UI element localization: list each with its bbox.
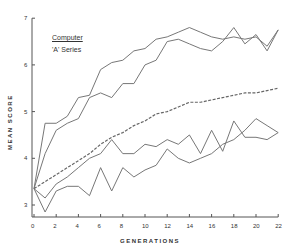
legend-computer: Computer	[52, 34, 83, 41]
x-tick-label: 22	[275, 223, 282, 229]
y-tick-label: 4	[24, 155, 28, 161]
x-tick-label: 0	[31, 223, 35, 229]
line-chart: 345670246810121416182022GENERATIONSMEAN …	[0, 0, 294, 250]
x-axis-label: GENERATIONS	[120, 238, 180, 244]
x-tick-label: 4	[75, 223, 79, 229]
x-tick-label: 6	[98, 223, 102, 229]
x-tick-label: 2	[53, 223, 57, 229]
x-tick-label: 18	[231, 223, 238, 229]
x-tick-label: 10	[142, 223, 149, 229]
x-tick-label: 16	[209, 223, 216, 229]
x-tick-label: 12	[164, 223, 171, 229]
x-tick-label: 14	[186, 223, 193, 229]
x-tick-label: 20	[253, 223, 260, 229]
y-axis-label: MEAN SCORE	[7, 94, 13, 150]
legend-a-series: 'A' Series	[52, 46, 81, 53]
y-tick-label: 7	[24, 15, 28, 21]
y-tick-label: 6	[24, 62, 28, 68]
y-tick-label: 3	[24, 202, 28, 208]
y-tick-label: 5	[24, 109, 28, 115]
x-tick-label: 8	[120, 223, 124, 229]
